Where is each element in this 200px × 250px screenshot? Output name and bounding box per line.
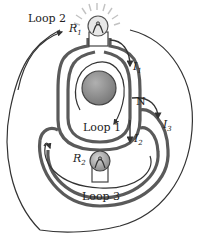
loop-2-arrow: [18, 32, 62, 90]
loop-2-label: Loop 2: [28, 12, 66, 25]
node-label: N: [136, 95, 146, 108]
i1-label: I1: [132, 60, 142, 75]
loop-1-label: Loop 1: [83, 121, 121, 134]
bulb-r2: [90, 151, 110, 182]
r2-label: R2: [72, 152, 86, 167]
loop-3-label: Loop 3: [82, 190, 120, 203]
i3-label: I3: [162, 118, 172, 133]
i2-label: I2: [133, 132, 143, 147]
battery: [82, 71, 116, 105]
bulb-r1: [88, 16, 108, 46]
circuit-diagram: Loop 2 R1 I1 N I3 Loop 1 I2 R2 Loop 3: [0, 0, 200, 250]
